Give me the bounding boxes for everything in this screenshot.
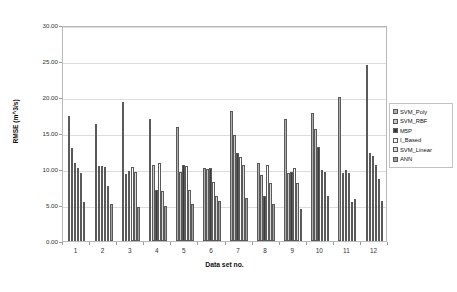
x-axis-tick-label: 7 — [236, 247, 240, 254]
y-axis: 0.005.0010.0015.0020.0025.0030.00 — [0, 0, 62, 292]
bar — [327, 196, 330, 241]
gridline — [63, 63, 386, 64]
x-axis-tick-mark — [89, 242, 90, 245]
x-axis-title: Data set no. — [62, 261, 387, 268]
y-axis-tick-label: 30.00 — [43, 23, 58, 29]
y-axis-tick-label: 5.00 — [46, 203, 58, 209]
rmse-grouped-bar-chart: 0.005.0010.0015.0020.0025.0030.00 RMSE (… — [0, 0, 457, 292]
y-axis-tick-mark — [59, 62, 62, 63]
x-axis-tick-label: 12 — [370, 247, 377, 254]
x-axis-tick-label: 2 — [101, 247, 105, 254]
bar — [218, 201, 221, 241]
legend-item: ANN — [393, 155, 450, 164]
x-axis-tick-label: 9 — [290, 247, 294, 254]
x-axis-tick-mark — [306, 242, 307, 245]
legend-item-label: SVM_RBF — [400, 118, 427, 124]
bar — [164, 206, 167, 241]
x-axis-tick-label: 11 — [343, 247, 350, 254]
gridline — [63, 27, 386, 28]
bar — [191, 204, 194, 241]
y-axis-title: RMSE (m^3/s) — [12, 77, 19, 167]
legend-item: M5P — [393, 126, 450, 135]
legend-swatch — [393, 138, 398, 143]
legend-item: I_Based — [393, 136, 450, 145]
bar — [381, 201, 384, 241]
legend-swatch — [393, 109, 398, 114]
legend-swatch — [393, 157, 398, 162]
bar — [137, 207, 140, 241]
legend-item-label: SVM_Linear — [400, 147, 432, 153]
legend-item: SVM_RBF — [393, 117, 450, 126]
bar — [354, 199, 357, 241]
y-axis-tick-label: 10.00 — [43, 167, 58, 173]
bar — [110, 204, 113, 241]
y-axis-tick-mark — [59, 98, 62, 99]
x-axis-tick-label: 10 — [316, 247, 323, 254]
legend-item-label: SVM_Poly — [400, 109, 427, 115]
legend-item-label: I_Based — [400, 137, 421, 143]
x-axis-tick-label: 3 — [128, 247, 132, 254]
y-axis-tick-label: 25.00 — [43, 59, 58, 65]
x-axis-tick-label: 1 — [74, 247, 78, 254]
y-axis-tick-mark — [59, 170, 62, 171]
legend-item-label: M5P — [400, 128, 412, 134]
legend-item-label: ANN — [400, 156, 412, 162]
x-axis-tick-mark — [387, 242, 388, 245]
y-axis-tick-mark — [59, 134, 62, 135]
x-axis-tick-mark — [170, 242, 171, 245]
x-axis-tick-mark — [225, 242, 226, 245]
bar — [245, 198, 248, 241]
bar — [300, 209, 303, 241]
legend: SVM_PolySVM_RBFM5PI_BasedSVM_LinearANN — [389, 103, 453, 168]
x-axis-tick-label: 5 — [182, 247, 186, 254]
legend-swatch — [393, 128, 398, 133]
y-axis-tick-mark — [59, 206, 62, 207]
legend-swatch — [393, 147, 398, 152]
x-axis-tick-mark — [116, 242, 117, 245]
bar — [83, 202, 86, 241]
x-axis-tick-label: 4 — [155, 247, 159, 254]
x-axis-tick-mark — [143, 242, 144, 245]
legend-item: SVM_Linear — [393, 145, 450, 154]
y-axis-tick-label: 20.00 — [43, 95, 58, 101]
plot-area — [62, 26, 387, 242]
legend-swatch — [393, 119, 398, 124]
x-axis-tick-mark — [279, 242, 280, 245]
x-axis-tick-mark — [252, 242, 253, 245]
x-axis-tick-label: 8 — [263, 247, 267, 254]
y-axis-tick-label: 15.00 — [43, 131, 58, 137]
bar — [272, 204, 275, 241]
legend-item: SVM_Poly — [393, 107, 450, 116]
x-axis-tick-mark — [197, 242, 198, 245]
y-axis-tick-mark — [59, 26, 62, 27]
x-axis-tick-label: 6 — [209, 247, 213, 254]
x-axis-tick-mark — [333, 242, 334, 245]
x-axis-tick-mark — [62, 242, 63, 245]
y-axis-tick-label: 0.00 — [46, 239, 58, 245]
x-axis-tick-mark — [360, 242, 361, 245]
